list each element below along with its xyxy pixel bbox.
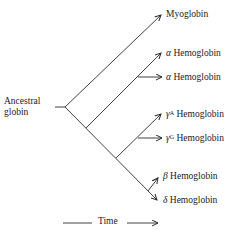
leaf-gamma-g: γG Hemoglobin <box>166 133 224 144</box>
root-label-line1: Ancestral <box>4 96 40 107</box>
leaf-delta: δ Hemoglobin <box>163 195 217 206</box>
alpha-branch <box>86 53 161 128</box>
superscript: G <box>170 134 174 140</box>
leaf-alpha1: α Hemoglobin <box>166 48 221 59</box>
main-trunk-delta-branch <box>65 107 157 200</box>
greek-prefix: β <box>163 171 168 181</box>
greek-prefix: α <box>166 72 171 82</box>
leaf-name: Hemoglobin <box>176 133 224 143</box>
root-label: Ancestral globin <box>4 96 40 118</box>
greek-prefix: δ <box>163 195 167 205</box>
leaf-myoglobin: Myoglobin <box>166 9 208 20</box>
beta-branch <box>148 178 158 191</box>
myoglobin-branch <box>65 15 161 107</box>
time-axis-label: Time <box>98 216 118 226</box>
leaf-beta: β Hemoglobin <box>163 171 218 182</box>
leaf-name: Hemoglobin <box>173 48 221 58</box>
leaf-name: Myoglobin <box>166 9 208 19</box>
superscript: A <box>170 110 174 116</box>
leaf-name: Hemoglobin <box>170 195 218 205</box>
leaf-name: Hemoglobin <box>170 171 218 181</box>
leaf-name: Hemoglobin <box>173 72 221 82</box>
greek-prefix: α <box>166 48 171 58</box>
leaf-alpha2: α Hemoglobin <box>166 72 221 83</box>
leaf-gamma-a: γA Hemoglobin <box>166 109 224 120</box>
gamma-a-branch <box>116 114 161 158</box>
root-label-line2: globin <box>4 107 40 118</box>
leaf-name: Hemoglobin <box>176 109 224 119</box>
